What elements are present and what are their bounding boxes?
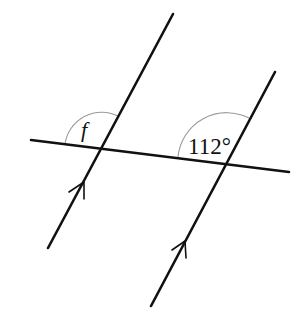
angle-label-f: f bbox=[81, 117, 90, 142]
angle-arc-f bbox=[65, 112, 118, 144]
parallel-lines-diagram: f 112° bbox=[0, 0, 305, 326]
parallel-line-left bbox=[48, 14, 173, 248]
parallel-line-right bbox=[151, 72, 275, 306]
transversal-line bbox=[31, 140, 289, 172]
angle-label-112: 112° bbox=[188, 134, 231, 159]
